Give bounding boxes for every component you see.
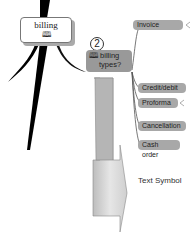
topic-label-line1: billing <box>100 51 119 60</box>
leaf-credit-debit[interactable]: Credit/debit <box>138 83 186 93</box>
topic-node-billing-types[interactable]: 🕮 billing types? <box>86 50 132 72</box>
topic-label-line2: types? <box>89 61 129 70</box>
root-node[interactable]: billing 🕮 <box>20 17 72 43</box>
arrow-text-symbol: Text Symbol <box>138 176 182 185</box>
leaf-cancellation[interactable]: Cancellation <box>138 121 186 131</box>
book-icon: 🕮 <box>21 31 71 39</box>
book-icon: 🕮 <box>89 51 98 60</box>
leaf-proforma[interactable]: Proforma <box>138 98 178 108</box>
leaf-cash-order[interactable]: Cash order <box>138 140 180 150</box>
leaf-invoice[interactable]: Invoice <box>133 20 183 30</box>
topic-number-badge: 2 <box>90 37 104 51</box>
